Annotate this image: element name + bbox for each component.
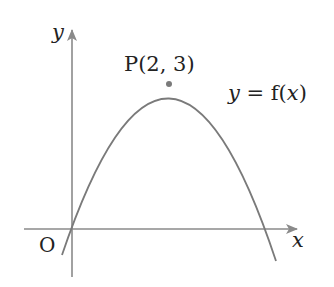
origin-label: O bbox=[39, 233, 55, 257]
curve-equation-label: y = f(x) bbox=[227, 81, 307, 105]
equation-close: ) bbox=[299, 81, 307, 105]
point-p-label: P(2, 3) bbox=[124, 52, 195, 76]
parabola-curve bbox=[62, 98, 276, 261]
x-axis-label: x bbox=[292, 228, 304, 252]
point-p-marker bbox=[166, 81, 172, 87]
y-axis-label: y bbox=[51, 20, 65, 44]
function-graph: y x O P(2, 3) y = f(x) bbox=[0, 0, 334, 287]
equation-x: x bbox=[287, 81, 299, 105]
equation-eq: = f( bbox=[240, 81, 287, 105]
